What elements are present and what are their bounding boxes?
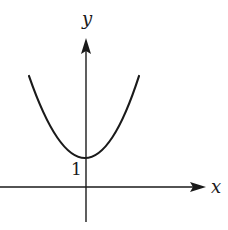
parabola-curve	[29, 76, 139, 158]
graph-canvas: y x 1	[0, 0, 228, 230]
x-axis-label: x	[211, 176, 221, 197]
x-axis	[0, 182, 206, 192]
y-axis	[81, 38, 91, 222]
y-axis-label: y	[81, 8, 93, 29]
y-intercept-label: 1	[71, 159, 82, 179]
